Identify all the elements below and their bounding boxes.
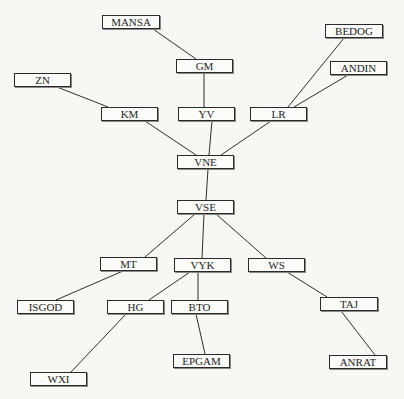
node-isgod: ISGOD: [17, 300, 74, 314]
node-gm: GM: [176, 59, 233, 73]
node-vne: VNE: [177, 155, 234, 169]
node-vse: VSE: [177, 200, 234, 214]
edge-vyk-hg: [149, 272, 190, 300]
edge-andin-lr: [294, 75, 348, 107]
edge-lr-vne: [221, 121, 271, 155]
node-taj: TAJ: [320, 297, 378, 311]
node-hg: HG: [107, 300, 164, 314]
node-vyk: VYK: [174, 258, 231, 272]
edge-yv-vne: [209, 121, 212, 155]
node-bedog: BEDOG: [325, 24, 383, 38]
node-mansa: MANSA: [102, 15, 160, 29]
edge-vse-vyk: [202, 214, 204, 258]
edge-mt-isgod: [56, 271, 123, 300]
node-ws: WS: [248, 258, 305, 272]
tree-diagram: MANSAGMZNBEDOGANDINKMYVLRVNEVSEMTVYKWSIS…: [0, 0, 404, 399]
edge-vse-ws: [216, 214, 266, 258]
edge-hg-wxi: [71, 314, 126, 372]
node-andin: ANDIN: [330, 61, 387, 75]
node-mt: MT: [100, 257, 157, 271]
node-km: KM: [101, 107, 158, 121]
edge-mansa-gm: [153, 29, 196, 59]
node-wxi: WXI: [30, 372, 87, 386]
node-yv: YV: [178, 107, 235, 121]
edge-taj-anrat: [341, 311, 375, 355]
node-lr: LR: [250, 107, 307, 121]
node-bto: BTO: [171, 300, 228, 314]
edge-bto-epgam: [196, 314, 205, 354]
node-anrat: ANRAT: [329, 355, 387, 369]
edge-vne-vse: [206, 169, 208, 200]
edge-ws-taj: [287, 272, 327, 297]
edge-zn-km: [57, 87, 108, 107]
node-zn: ZN: [14, 73, 71, 87]
node-epgam: EPGAM: [173, 354, 230, 368]
edge-vse-mt: [145, 214, 195, 257]
edge-km-vne: [145, 121, 196, 155]
